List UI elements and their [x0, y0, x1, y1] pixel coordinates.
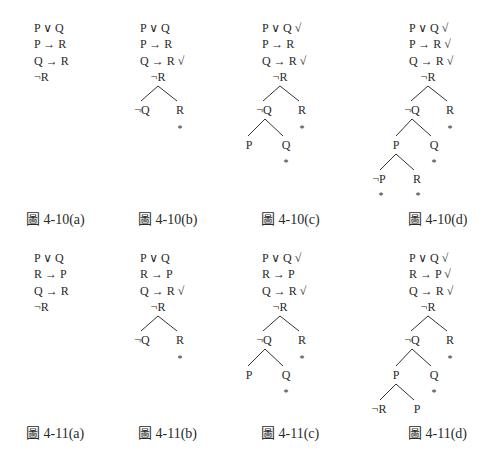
figure-caption: 圖 4-10(a) — [26, 212, 85, 228]
tree-branch-line — [396, 119, 412, 136]
premise-formula: R → P — [140, 267, 173, 281]
premise-formula: P → R √ — [409, 37, 451, 51]
tree-node: P — [246, 138, 253, 152]
tree-branch-line — [396, 154, 414, 170]
tree-branch-line — [411, 316, 428, 331]
premise-formula: P ∨ Q — [140, 251, 170, 265]
tree-branch-line — [396, 349, 412, 366]
tree-node: ¬Q — [404, 333, 420, 347]
figure-caption: 圖 4-10(b) — [138, 212, 198, 228]
tree-node: R — [446, 333, 454, 347]
tree-branch-line — [141, 86, 158, 101]
tree-branch-line — [428, 316, 447, 331]
tree-node: ¬R — [421, 70, 436, 84]
tree-branch-line — [248, 349, 265, 366]
premise-formula: P ∨ Q √ — [262, 21, 302, 35]
tree-branch-line — [263, 316, 280, 331]
premise-formula: Q → R √ — [140, 54, 185, 68]
figure-caption: 圖 4-11(d) — [408, 426, 467, 442]
figure-caption: 圖 4-11(b) — [138, 426, 197, 442]
tree-node: Q — [430, 368, 439, 382]
premise-formula: P ∨ Q — [140, 21, 170, 35]
tree-node: ¬Q — [404, 103, 420, 117]
tree-node: ¬R — [151, 70, 166, 84]
closed-branch-star-icon: * — [300, 123, 305, 134]
closed-branch-star-icon: * — [284, 157, 289, 168]
tree-node: Q — [282, 368, 291, 382]
tree-node: Q — [430, 138, 439, 152]
tree-branch-line — [412, 119, 431, 136]
premise-formula: Q → R √ — [262, 284, 307, 298]
tree-branch-line — [380, 154, 396, 170]
closed-branch-star-icon: * — [416, 190, 421, 201]
tree-node: R — [298, 103, 306, 117]
premise-formula: P ∨ Q √ — [262, 251, 302, 265]
premise-formula: Q → R — [34, 284, 69, 298]
closed-branch-star-icon: * — [379, 190, 384, 201]
tree-node: ¬R — [273, 300, 288, 314]
tree-node: R — [176, 103, 184, 117]
premise-formula: Q → R √ — [262, 54, 307, 68]
figure-4-10c: P ∨ Q √P → RQ → R √¬R¬QRPQ**圖 4-10(c) — [246, 21, 320, 228]
premise-formula: ¬R — [34, 300, 49, 314]
closed-branch-star-icon: * — [300, 353, 305, 364]
figure-4-10d: P ∨ Q √P → R √Q → R √¬R¬QRPQ¬PR****圖 4-1… — [372, 21, 468, 228]
tree-node: ¬R — [273, 70, 288, 84]
tree-branch-line — [380, 384, 396, 400]
premise-formula: P → R — [140, 37, 172, 51]
tree-node: ¬Q — [134, 103, 150, 117]
tree-node: ¬P — [372, 172, 386, 186]
premise-formula: P ∨ Q — [34, 251, 64, 265]
premise-formula: P ∨ Q √ — [409, 21, 449, 35]
tree-node: ¬Q — [256, 103, 272, 117]
closed-branch-star-icon: * — [432, 387, 437, 398]
tree-node: R — [413, 172, 421, 186]
figure-4-11d: P ∨ Q √R → P √Q → R √¬R¬QRPQ¬RP**圖 4-11(… — [372, 251, 468, 442]
tree-branch-line — [158, 86, 177, 101]
tree-node: P — [393, 368, 400, 382]
premise-formula: Q → R √ — [409, 54, 454, 68]
figure-4-11a: P ∨ QR → PQ → R¬R圖 4-11(a) — [26, 251, 85, 442]
premise-formula: P → R — [34, 37, 66, 51]
premise-formula: R → P √ — [409, 267, 451, 281]
figure-caption: 圖 4-11(a) — [26, 426, 85, 442]
closed-branch-star-icon: * — [432, 157, 437, 168]
premise-formula: Q → R — [34, 54, 69, 68]
tree-node: ¬R — [151, 300, 166, 314]
premise-formula: P ∨ Q — [34, 21, 64, 35]
truth-tree-figures: P ∨ QP → RQ → R¬R圖 4-10(a)P ∨ QP → RQ → … — [0, 0, 484, 465]
tree-branch-line — [280, 86, 299, 101]
closed-branch-star-icon: * — [178, 123, 183, 134]
tree-branch-line — [412, 349, 431, 366]
figure-caption: 圖 4-10(d) — [408, 212, 468, 228]
figure-caption: 圖 4-11(c) — [261, 426, 320, 442]
tree-node: ¬R — [421, 300, 436, 314]
tree-node: R — [176, 333, 184, 347]
closed-branch-star-icon: * — [178, 353, 183, 364]
tree-branch-line — [396, 384, 414, 400]
tree-node: P — [393, 138, 400, 152]
tree-node: ¬R — [372, 402, 387, 416]
tree-branch-line — [265, 119, 283, 136]
tree-branch-line — [158, 316, 177, 331]
tree-branch-line — [141, 316, 158, 331]
premise-formula: R → P — [262, 267, 295, 281]
tree-node: ¬Q — [134, 333, 150, 347]
closed-branch-star-icon: * — [284, 387, 289, 398]
tree-node: ¬Q — [256, 333, 272, 347]
tree-node: Q — [282, 138, 291, 152]
premise-formula: ¬R — [34, 70, 49, 84]
figures-root: P ∨ QP → RQ → R¬R圖 4-10(a)P ∨ QP → RQ → … — [26, 21, 468, 442]
tree-branch-line — [263, 86, 280, 101]
figure-4-11b: P ∨ QR → PQ → R √¬R¬QR*圖 4-11(b) — [134, 251, 197, 442]
tree-node: P — [246, 368, 253, 382]
tree-node: R — [298, 333, 306, 347]
figure-4-10a: P ∨ QP → RQ → R¬R圖 4-10(a) — [26, 21, 85, 228]
closed-branch-star-icon: * — [448, 123, 453, 134]
tree-branch-line — [248, 119, 265, 136]
tree-branch-line — [265, 349, 283, 366]
tree-branch-line — [428, 86, 447, 101]
tree-branch-line — [280, 316, 299, 331]
premise-formula: R → P — [34, 267, 67, 281]
closed-branch-star-icon: * — [448, 353, 453, 364]
